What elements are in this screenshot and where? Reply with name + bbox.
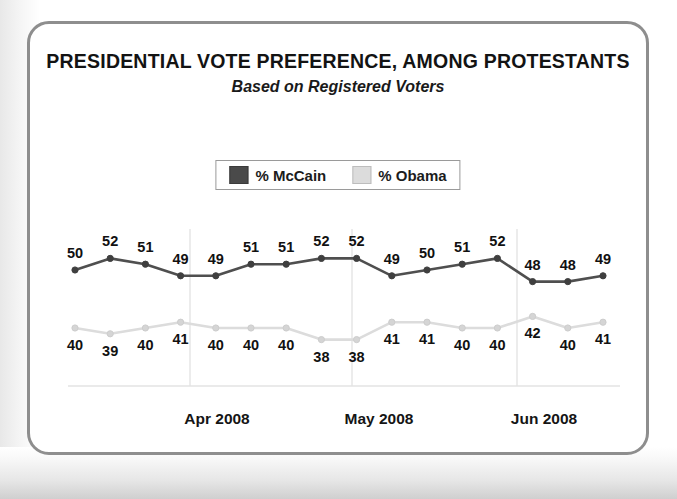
data-label-obama: 41 bbox=[595, 331, 611, 347]
data-point-marker bbox=[565, 325, 571, 331]
data-point-marker bbox=[354, 337, 360, 343]
data-point-marker bbox=[530, 313, 536, 319]
data-point-marker bbox=[178, 319, 184, 325]
data-point-marker bbox=[389, 319, 395, 325]
data-label-mccain: 49 bbox=[173, 251, 189, 267]
data-point-marker bbox=[600, 273, 606, 279]
data-label-mccain: 48 bbox=[560, 257, 576, 273]
chart-card: PRESIDENTIAL VOTE PREFERENCE, AMONG PROT… bbox=[27, 21, 649, 455]
data-point-marker bbox=[178, 273, 184, 279]
data-label-mccain: 49 bbox=[384, 251, 400, 267]
data-point-marker bbox=[494, 325, 500, 331]
data-point-marker bbox=[213, 325, 219, 331]
data-label-mccain: 52 bbox=[349, 233, 365, 249]
data-point-marker bbox=[530, 279, 536, 285]
data-point-marker bbox=[142, 325, 148, 331]
data-point-marker bbox=[600, 319, 606, 325]
data-point-marker bbox=[72, 325, 78, 331]
chart-subtitle: Based on Registered Voters bbox=[30, 78, 646, 96]
data-point-marker bbox=[142, 261, 148, 267]
data-label-mccain: 52 bbox=[489, 233, 505, 249]
data-label-obama: 38 bbox=[349, 349, 365, 365]
data-label-mccain: 50 bbox=[67, 245, 83, 261]
data-point-marker bbox=[354, 255, 360, 261]
data-label-obama: 40 bbox=[489, 337, 505, 353]
data-point-marker bbox=[213, 273, 219, 279]
legend-swatch-mccain bbox=[229, 166, 248, 184]
data-label-mccain: 50 bbox=[419, 245, 435, 261]
data-point-marker bbox=[283, 325, 289, 331]
data-point-marker bbox=[389, 273, 395, 279]
data-point-marker bbox=[248, 261, 254, 267]
data-label-mccain: 51 bbox=[278, 239, 294, 255]
data-point-marker bbox=[107, 331, 113, 337]
legend-item-mccain: % McCain bbox=[229, 166, 326, 184]
data-label-obama: 41 bbox=[419, 331, 435, 347]
data-point-marker bbox=[424, 319, 430, 325]
x-axis-tick-label: Apr 2008 bbox=[184, 410, 249, 428]
data-label-obama: 41 bbox=[173, 331, 189, 347]
data-label-obama: 41 bbox=[384, 331, 400, 347]
data-point-marker bbox=[459, 261, 465, 267]
data-label-obama: 40 bbox=[560, 337, 576, 353]
data-point-marker bbox=[565, 279, 571, 285]
data-label-obama: 40 bbox=[67, 337, 83, 353]
data-point-marker bbox=[283, 261, 289, 267]
data-label-obama: 40 bbox=[137, 337, 153, 353]
data-point-marker bbox=[494, 255, 500, 261]
data-point-marker bbox=[107, 255, 113, 261]
data-label-obama: 40 bbox=[243, 337, 259, 353]
data-point-marker bbox=[248, 325, 254, 331]
chart-legend: % McCain % Obama bbox=[215, 160, 460, 190]
legend-label-mccain: % McCain bbox=[255, 167, 326, 184]
data-label-obama: 40 bbox=[278, 337, 294, 353]
data-point-marker bbox=[72, 267, 78, 273]
data-label-obama: 39 bbox=[102, 343, 118, 359]
x-axis-tick-label: May 2008 bbox=[345, 410, 414, 428]
data-point-marker bbox=[424, 267, 430, 273]
data-point-marker bbox=[318, 255, 324, 261]
data-label-mccain: 52 bbox=[313, 233, 329, 249]
data-label-obama: 40 bbox=[454, 337, 470, 353]
data-label-mccain: 49 bbox=[595, 251, 611, 267]
data-label-mccain: 52 bbox=[102, 233, 118, 249]
data-label-mccain: 51 bbox=[137, 239, 153, 255]
data-label-obama: 40 bbox=[208, 337, 224, 353]
data-label-mccain: 48 bbox=[525, 257, 541, 273]
data-label-mccain: 51 bbox=[454, 239, 470, 255]
data-point-marker bbox=[318, 337, 324, 343]
legend-label-obama: % Obama bbox=[378, 167, 446, 184]
data-label-obama: 38 bbox=[313, 349, 329, 365]
data-label-mccain: 49 bbox=[208, 251, 224, 267]
page-title: PRESIDENTIAL VOTE PREFERENCE, AMONG PROT… bbox=[30, 50, 646, 73]
data-label-obama: 42 bbox=[525, 325, 541, 341]
data-label-mccain: 51 bbox=[243, 239, 259, 255]
x-axis-tick-label: Jun 2008 bbox=[511, 410, 577, 428]
legend-swatch-obama bbox=[352, 166, 371, 184]
chart-header: PRESIDENTIAL VOTE PREFERENCE, AMONG PROT… bbox=[30, 50, 646, 96]
data-point-marker bbox=[459, 325, 465, 331]
legend-item-obama: % Obama bbox=[352, 166, 446, 184]
